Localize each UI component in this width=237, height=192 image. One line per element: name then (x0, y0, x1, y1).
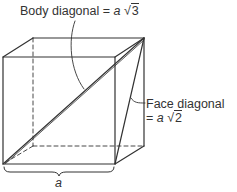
sqrt-2: √2 (167, 111, 182, 125)
body-diagonal-text: Body diagonal (20, 4, 99, 18)
face-diagonal-text: Face diagonal (146, 97, 225, 111)
front-face (3, 57, 115, 164)
sqrt-3: √3 (124, 4, 139, 18)
edge-length-label: a (55, 176, 62, 190)
face-diagonal-value: = a √2 (146, 111, 225, 125)
face-diagonal-label: Face diagonal = a √2 (146, 97, 225, 125)
equals-sign: = (146, 111, 153, 125)
edge-brace (4, 167, 114, 176)
body-diagonal-label: Body diagonal = a √3 (20, 4, 139, 18)
radicand: 2 (174, 110, 182, 125)
equals-sign: = (103, 4, 110, 18)
radicand: 3 (131, 3, 139, 18)
face-diagonal-line (115, 38, 144, 164)
radical-sign: √ (124, 4, 131, 18)
variable-a: a (157, 111, 164, 125)
face-diagonal-leader (131, 98, 145, 103)
variable-a: a (114, 4, 121, 18)
cube-diagram (0, 0, 237, 192)
body-diagonal-leader (71, 21, 84, 89)
